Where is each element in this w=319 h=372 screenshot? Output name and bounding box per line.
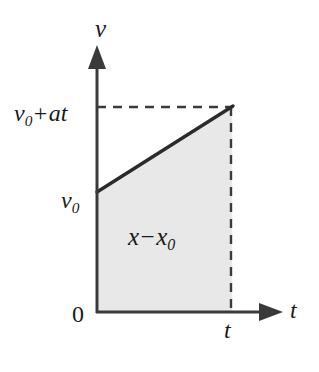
- v-axis-label: v: [95, 16, 106, 41]
- displacement-base: x: [128, 223, 139, 250]
- displacement-operator: −: [139, 223, 156, 250]
- initial-velocity-subscript: 0: [72, 199, 80, 216]
- t-axis-label-text: t: [290, 297, 297, 323]
- final-velocity-operator: +: [32, 100, 48, 126]
- t-axis-arrowhead: [259, 303, 283, 321]
- final-velocity-base: v: [14, 100, 25, 126]
- v-axis-arrowhead: [88, 45, 106, 69]
- origin-label: 0: [72, 302, 84, 326]
- initial-velocity-base: v: [61, 187, 72, 213]
- final-velocity-term: at: [49, 100, 68, 126]
- final-velocity-label: v0+at: [14, 101, 67, 125]
- initial-velocity-label: v0: [61, 188, 79, 212]
- graph-canvas: [0, 0, 319, 372]
- displacement-term-subscript: 0: [167, 236, 175, 253]
- t-axis-label: t: [290, 298, 297, 322]
- origin-label-text: 0: [72, 301, 84, 327]
- final-velocity-subscript: 0: [25, 112, 33, 129]
- t-tick-label-text: t: [224, 317, 231, 343]
- displacement-term: x: [156, 223, 167, 250]
- shaded-area-under-curve: [97, 107, 232, 312]
- displacement-area-label: x−x0: [128, 224, 175, 249]
- velocity-time-graph: v v0+at v0 x−x0 0 t t: [0, 0, 319, 372]
- t-tick-label: t: [224, 318, 231, 342]
- v-axis-label-text: v: [95, 15, 106, 42]
